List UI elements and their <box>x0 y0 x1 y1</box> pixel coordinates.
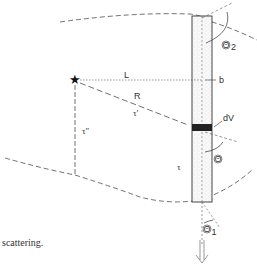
label-theta: Θ <box>215 154 222 164</box>
scattering-geometry-diagram: dV ★ L b R τ′ τ″ τ Θ 2 Θ Θ 1 <box>0 0 257 264</box>
label-tau-double-prime: τ″ <box>82 126 90 136</box>
label-R: R <box>134 91 141 101</box>
volume-element-dV <box>192 124 212 131</box>
upper-boundary-curve-right <box>212 22 257 40</box>
label-b: b <box>219 75 224 85</box>
star-source-icon: ★ <box>69 72 81 87</box>
theta1-arc <box>204 220 213 223</box>
upper-boundary-curve <box>60 14 212 22</box>
label-L: L <box>124 70 129 80</box>
dV-pointer <box>214 121 222 127</box>
label-tau-prime: τ′ <box>133 108 139 118</box>
lower-boundary-curve <box>5 158 252 202</box>
label-tau: τ <box>177 162 181 172</box>
observer-arrow-head-icon <box>196 255 208 263</box>
figure-caption: scattering. <box>2 237 43 248</box>
label-theta-2: Θ <box>223 40 230 50</box>
label-theta-1: Θ <box>204 224 211 234</box>
label-theta-1-sub: 1 <box>212 227 217 237</box>
path-R-line <box>80 83 188 125</box>
label-theta-2-sub: 2 <box>231 42 236 52</box>
label-dV: dV <box>223 113 234 123</box>
